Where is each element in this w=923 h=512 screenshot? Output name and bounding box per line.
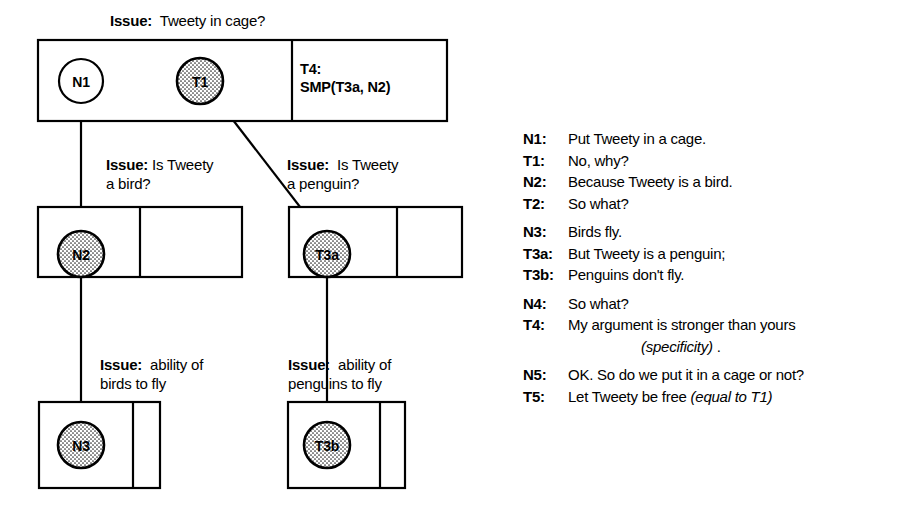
legend-row: T4:My argument is stronger than yours xyxy=(523,314,923,336)
legend-key: T5: xyxy=(523,386,545,408)
legend-key: T1: xyxy=(523,150,545,172)
legend-row: T3b:Penguins don't fly. xyxy=(523,264,923,286)
issue-keyword: Issue: xyxy=(288,356,330,373)
legend-row: T5:Let Tweety be free (equal to T1) xyxy=(523,386,923,408)
legend-key: N2: xyxy=(523,171,546,193)
legend-row: N5:OK. So do we put it in a cage or not? xyxy=(523,364,923,386)
legend-continuation-specificity: (specificity) . xyxy=(523,336,923,358)
issue-label-top: Issue: Tweety in cage? xyxy=(110,11,265,30)
legend-value: No, why? xyxy=(568,150,629,172)
issue-label-mid-left: Issue: Is Tweety a bird? xyxy=(106,155,213,193)
issue-keyword: Issue: xyxy=(110,12,152,29)
issue-keyword: Issue: xyxy=(100,356,142,373)
legend-value: Put Tweety in a cage. xyxy=(568,128,706,150)
legend-key: N3: xyxy=(523,221,546,243)
legend-row: N3:Birds fly. xyxy=(523,221,923,243)
top-box-t4-cell-text: T4: SMP(T3a, N2) xyxy=(300,60,390,96)
node-circle-t3a[interactable] xyxy=(304,231,350,277)
legend-value: OK. So do we put it in a cage or not? xyxy=(568,364,804,386)
legend-key: T3b: xyxy=(523,264,554,286)
legend-key: N4: xyxy=(523,293,546,315)
legend-value: So what? xyxy=(568,293,629,315)
issue-keyword: Issue: xyxy=(287,156,329,173)
issue-label-bot-right: Issue: ability of penguins to fly xyxy=(288,355,391,393)
legend-row: N4:So what? xyxy=(523,293,923,315)
legend-row: N2:Because Tweety is a bird. xyxy=(523,171,923,193)
legend-value: Because Tweety is a bird. xyxy=(568,171,732,193)
legend-key: T4: xyxy=(523,314,545,336)
legend-continuation-tail: . xyxy=(713,338,721,355)
legend-value: Birds fly. xyxy=(568,221,622,243)
issue-text: Tweety in cage? xyxy=(152,12,265,29)
node-circle-n3[interactable] xyxy=(58,422,104,468)
legend-key: N5: xyxy=(523,364,546,386)
legend-value-italic: (equal to T1) xyxy=(691,388,773,405)
legend-value: Let Tweety be free (equal to T1) xyxy=(568,386,772,408)
legend-row: N1:Put Tweety in a cage. xyxy=(523,128,923,150)
node-circle-n2[interactable] xyxy=(58,231,104,277)
utterance-legend: N1:Put Tweety in a cage.T1:No, why?N2:Be… xyxy=(523,128,923,407)
legend-key: N1: xyxy=(523,128,546,150)
legend-row: T2:So what? xyxy=(523,193,923,215)
node-circle-n1[interactable] xyxy=(59,59,103,103)
node-circle-t1[interactable] xyxy=(177,58,223,104)
legend-row: T3a:But Tweety is a penguin; xyxy=(523,243,923,265)
issue-keyword: Issue: xyxy=(106,156,148,173)
issue-label-bot-left: Issue: ability of birds to fly xyxy=(100,355,203,393)
legend-key: T3a: xyxy=(523,243,553,265)
node-circle-t3b[interactable] xyxy=(304,422,350,468)
legend-key: T2: xyxy=(523,193,545,215)
legend-value: My argument is stronger than yours xyxy=(568,314,795,336)
issue-label-mid-right: Issue: Is Tweety a penguin? xyxy=(287,155,398,193)
legend-value: But Tweety is a penguin; xyxy=(568,243,725,265)
legend-value: Penguins don't fly. xyxy=(568,264,684,286)
legend-value: So what? xyxy=(568,193,629,215)
legend-row: T1:No, why? xyxy=(523,150,923,172)
